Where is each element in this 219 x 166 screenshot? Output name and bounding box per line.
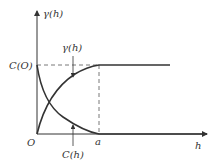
variogram-curve-label: γ(h)	[62, 42, 82, 53]
variogram-diagram: γ(h) γ(h) C(O) O a h C(h)	[0, 0, 219, 166]
y-axis-label: γ(h)	[43, 8, 63, 19]
origin-label: O	[27, 137, 35, 148]
sill-label: C(O)	[9, 60, 33, 71]
covariance-curve-label: C(h)	[62, 149, 84, 160]
covariance-curve	[37, 65, 207, 134]
x-axis-label: h	[195, 140, 201, 151]
range-label: a	[95, 136, 101, 147]
variogram-curve	[37, 65, 170, 134]
